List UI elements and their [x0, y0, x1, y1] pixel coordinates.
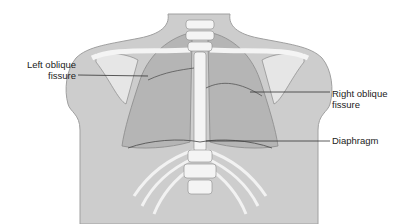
label-line: Left oblique — [14, 59, 76, 70]
label-line: fissure — [14, 70, 76, 81]
label-right-oblique-fissure: Right oblique fissure — [332, 88, 387, 110]
label-line: fissure — [332, 99, 387, 110]
label-line: Diaphragm — [332, 135, 378, 146]
thorax-illustration — [0, 0, 405, 224]
label-line: Right oblique — [332, 88, 387, 99]
label-diaphragm: Diaphragm — [332, 135, 378, 146]
thorax-diagram: Left oblique fissure Right oblique fissu… — [0, 0, 405, 224]
label-left-oblique-fissure: Left oblique fissure — [14, 59, 76, 81]
